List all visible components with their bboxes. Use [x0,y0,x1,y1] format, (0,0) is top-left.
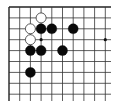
star-point-icon [104,38,107,41]
black-stone[interactable] [25,46,35,56]
white-stone[interactable] [25,24,35,34]
black-stone[interactable] [25,67,35,77]
black-stone[interactable] [47,24,57,34]
black-stone[interactable] [36,24,46,34]
black-stone[interactable] [58,46,68,56]
white-stone[interactable] [25,35,35,45]
black-stone[interactable] [36,46,46,56]
black-stone[interactable] [68,24,78,34]
white-stone[interactable] [36,13,46,23]
star-point-icon [40,38,43,41]
go-board[interactable] [0,0,117,105]
